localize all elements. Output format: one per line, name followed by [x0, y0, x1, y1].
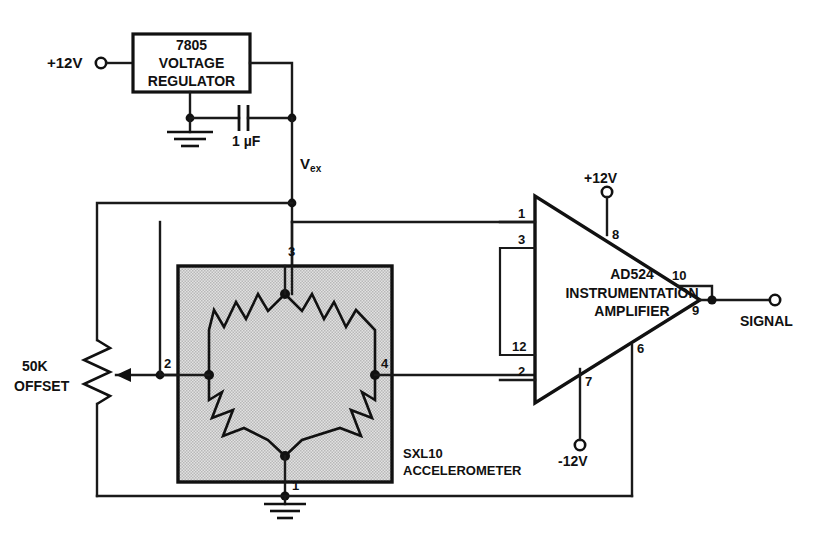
amp-negative-supply	[575, 369, 585, 450]
capacitor-branch	[190, 105, 292, 131]
amp-supply-negative-label: -12V	[558, 453, 588, 470]
signal-output-terminal[interactable]	[770, 295, 780, 305]
amp-pin-3-number: 3	[518, 232, 525, 247]
amplifier-line1-label: INSTRUMENTATION	[534, 285, 730, 302]
sensor-pin-4-number: 4	[381, 356, 388, 371]
signal-output-label: SIGNAL	[740, 313, 793, 330]
amp-pin-10-number: 10	[672, 268, 686, 283]
amp-pin-6-number: 6	[637, 341, 644, 356]
amp-pin-12-number: 12	[512, 339, 526, 354]
input-supply-branch	[96, 58, 133, 68]
amp-pin-9-number: 9	[692, 303, 699, 318]
pot-function-label: OFFSET	[14, 378, 69, 395]
amp-pin-2-number: 2	[518, 364, 525, 379]
excitation-label: Vex	[300, 155, 322, 175]
schematic-diagram: +12V 7805 VOLTAGE REGULATOR 1 µF Vex 50K…	[0, 0, 815, 549]
amp-supply-positive-label: +12V	[584, 170, 617, 187]
excitation-label-sub: ex	[310, 163, 322, 174]
pot-resistor-zigzag	[84, 340, 110, 404]
amp-positive-supply	[602, 187, 612, 235]
pot-wiper-arrowhead	[116, 368, 131, 382]
amp-pin-1-number: 1	[518, 206, 525, 221]
vex-rail	[250, 63, 296, 294]
sensor-pin-1-number: 1	[292, 478, 299, 493]
pot-value-label: 50K	[22, 358, 48, 375]
supply-positive-terminal[interactable]	[602, 187, 612, 197]
supply-negative-terminal[interactable]	[575, 440, 585, 450]
sensor-type-label: ACCELEROMETER	[403, 463, 521, 478]
regulator-part-label: 7805	[133, 37, 250, 54]
amp-pin-8-number: 8	[612, 227, 619, 242]
sensor-pin-2-number: 2	[164, 356, 171, 371]
amplifier-line2-label: AMPLIFIER	[534, 303, 730, 320]
regulator-line1-label: VOLTAGE	[133, 55, 250, 72]
capacitor-value-label: 1 µF	[232, 133, 260, 150]
regulator-line2-label: REGULATOR	[133, 73, 250, 90]
sensor-pin-3-number: 3	[288, 244, 295, 259]
input-supply-label: +12V	[47, 54, 82, 72]
excitation-label-main: V	[300, 155, 310, 172]
amplifier-part-label: AD524	[577, 266, 687, 283]
ground-bus	[97, 496, 632, 518]
wire-regulator-out-to-vex	[250, 63, 292, 118]
sensor-part-label: SXL10	[403, 446, 443, 461]
amp-pin-7-number: 7	[585, 374, 592, 389]
input-terminal-circle[interactable]	[96, 58, 106, 68]
